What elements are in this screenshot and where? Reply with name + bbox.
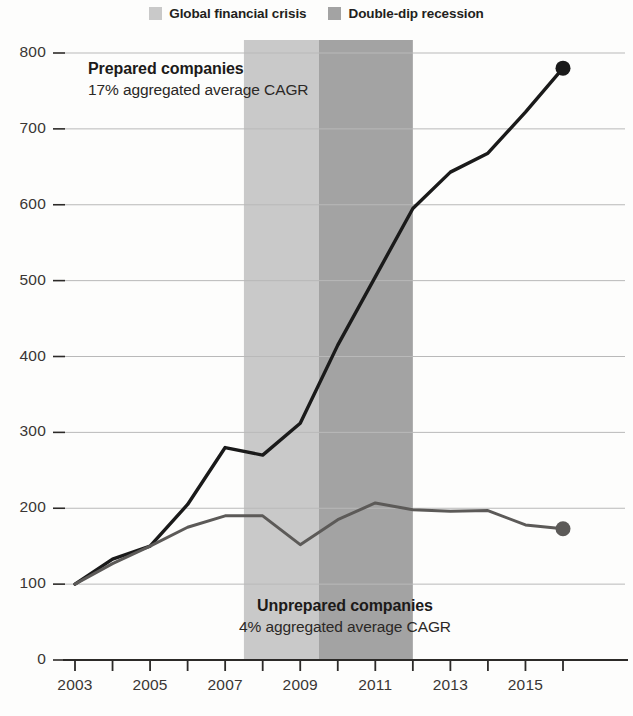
- chart-figure: Global financial crisis Double-dip reces…: [0, 0, 633, 716]
- series-end-marker: [556, 61, 571, 76]
- y-axis-tick-label: 200: [0, 498, 46, 516]
- annotation-unprepared: Unprepared companies 4% aggregated avera…: [195, 597, 495, 636]
- series-end-marker: [556, 521, 571, 536]
- shaded-band: [244, 40, 319, 660]
- y-axis-tick-label: 500: [0, 271, 46, 289]
- x-axis-tick-label: 2013: [420, 676, 480, 694]
- y-axis-tick-label: 400: [0, 347, 46, 365]
- y-axis-tick-label: 300: [0, 422, 46, 440]
- x-axis-tick-label: 2015: [495, 676, 555, 694]
- y-axis-tick-label: 0: [0, 650, 46, 668]
- shaded-band: [319, 40, 413, 660]
- annotation-unprepared-subtitle: 4% aggregated average CAGR: [195, 618, 495, 636]
- x-axis-tick-label: 2011: [345, 676, 405, 694]
- y-axis-tick-label: 700: [0, 119, 46, 137]
- annotation-prepared-subtitle: 17% aggregated average CAGR: [88, 81, 308, 99]
- shaded-bands: [244, 40, 413, 660]
- annotation-prepared: Prepared companies 17% aggregated averag…: [88, 60, 308, 99]
- x-axis-tick-label: 2003: [45, 676, 105, 694]
- x-axis-tick-label: 2007: [195, 676, 255, 694]
- x-axis-tick-label: 2005: [120, 676, 180, 694]
- series-end-markers: [556, 61, 571, 537]
- y-axis-tick-label: 800: [0, 43, 46, 61]
- x-axis-tick-label: 2009: [270, 676, 330, 694]
- y-axis-tick-label: 600: [0, 195, 46, 213]
- annotation-unprepared-title: Unprepared companies: [195, 597, 495, 615]
- annotation-prepared-title: Prepared companies: [88, 60, 308, 78]
- y-axis-tick-label: 100: [0, 574, 46, 592]
